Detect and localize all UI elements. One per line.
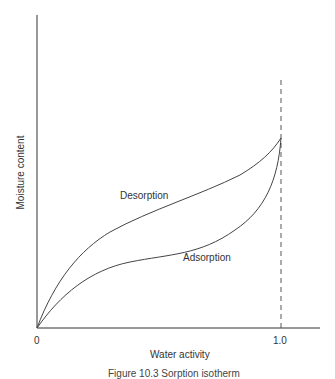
x-axis-label: Water activity	[150, 349, 210, 360]
x-tick-1: 1.0	[273, 335, 287, 346]
adsorption-label: Adsorption	[183, 252, 231, 263]
adsorption-curve	[37, 138, 281, 328]
x-tick-0: 0	[34, 335, 40, 346]
desorption-label: Desorption	[120, 190, 168, 201]
figure-caption: Figure 10.3 Sorption isotherm	[108, 368, 240, 379]
y-axis-label: Moisture content	[15, 128, 26, 218]
desorption-curve	[37, 138, 281, 328]
